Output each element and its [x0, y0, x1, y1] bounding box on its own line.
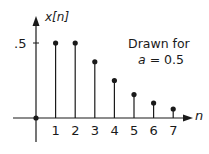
stem-dot-n5 [131, 92, 136, 97]
stem-dot-n6 [151, 100, 156, 105]
stem-dot-n3 [92, 59, 97, 64]
stem-dot-n4 [112, 78, 117, 83]
x-tick-label: 3 [91, 124, 99, 137]
annotation-value: = 0.5 [146, 52, 184, 67]
x-axis-arrow-icon [183, 115, 193, 122]
annotation-line2: a = 0.5 [138, 54, 184, 67]
y-tick-label: .5 [14, 37, 26, 50]
annotation-line1: Drawn for [128, 38, 190, 51]
stem-dot-n7 [171, 106, 176, 111]
x-tick-label: 6 [150, 124, 158, 137]
stem-dot-n0 [33, 115, 38, 120]
x-tick-label: 4 [110, 124, 118, 137]
y-axis-label: x[n] [45, 11, 69, 23]
annotation-symbol-a: a [138, 52, 146, 67]
stem-dot-n1 [53, 40, 58, 45]
x-tick-label: 5 [130, 124, 138, 137]
x-tick-label: 2 [71, 124, 79, 137]
stem-dot-n2 [73, 40, 78, 45]
y-axis-arrow-icon [33, 16, 40, 26]
x-tick-label: 7 [169, 124, 177, 137]
x-axis-label: n [195, 109, 203, 122]
x-tick-label: 1 [52, 124, 60, 137]
stem-plot [0, 0, 209, 154]
